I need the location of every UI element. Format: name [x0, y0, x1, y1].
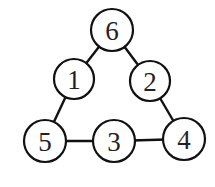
node-1: 1 [54, 59, 94, 99]
node-6: 6 [91, 9, 133, 51]
number-triangle-diagram: 6 1 2 5 3 4 [0, 0, 215, 187]
node-3: 3 [93, 120, 135, 162]
node-2-label: 2 [143, 67, 157, 97]
node-4: 4 [163, 118, 205, 160]
node-1-label: 1 [67, 65, 81, 95]
node-6-label: 6 [105, 16, 119, 46]
node-4-label: 4 [177, 125, 191, 155]
node-3-label: 3 [107, 127, 121, 157]
node-5: 5 [24, 120, 66, 162]
node-5-label: 5 [38, 127, 52, 157]
node-2: 2 [130, 61, 170, 101]
